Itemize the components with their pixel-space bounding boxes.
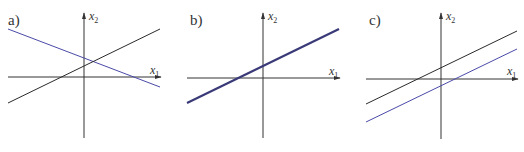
panel-a: a) x2 x1	[8, 9, 161, 138]
linear-systems-diagram: a) x2 x1 b) x2 x1 c) x2 x1	[0, 0, 524, 152]
y-axis-label: x2	[267, 9, 277, 25]
panel-c-label: c)	[369, 12, 381, 29]
x-axis-label: x1	[506, 64, 516, 80]
panel-b-label: b)	[190, 12, 203, 29]
x-axis-label: x1	[149, 63, 159, 79]
y-axis-label: x2	[88, 9, 98, 25]
x-axis-label: x1	[328, 64, 338, 80]
y-axis-label: x2	[445, 9, 455, 25]
panel-c: c) x2 x1	[366, 9, 518, 139]
panel-b: b) x2 x1	[187, 9, 340, 138]
panel-a-label: a)	[8, 12, 20, 29]
